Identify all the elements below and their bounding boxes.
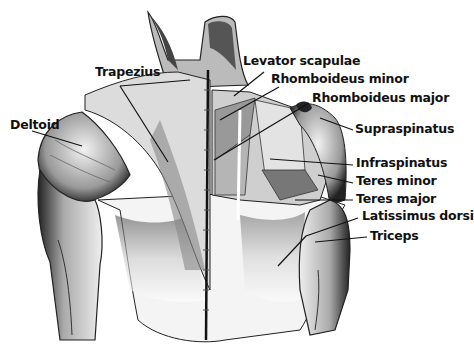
label-teres-minor: Teres minor xyxy=(356,175,437,188)
label-deltoid: Deltoid xyxy=(10,119,60,132)
label-triceps: Triceps xyxy=(370,230,418,243)
label-latissimus-dorsi: Latissimus dorsi xyxy=(362,210,474,223)
label-infraspinatus: Infraspinatus xyxy=(356,157,447,170)
label-supraspinatus: Supraspinatus xyxy=(355,123,454,136)
label-trapezius: Trapezius xyxy=(95,66,160,79)
label-levator-scapulae: Levator scapulae xyxy=(243,55,360,68)
label-teres-major: Teres major xyxy=(356,193,436,206)
label-rhomboideus-minor: Rhomboideus minor xyxy=(271,73,409,86)
label-rhomboideus-major: Rhomboideus major xyxy=(312,92,449,105)
